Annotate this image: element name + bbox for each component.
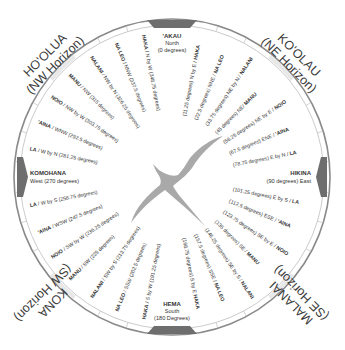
house-name: HAKA [193,294,202,310]
house-label: (22.5 degrees) NNE / NA LEO [193,54,225,121]
house-label: (135 degrees) SE / MANU [214,219,261,266]
house-label: HAKA / S by W (191.25 degrees) [141,243,162,320]
cardinal-north-degrees: (0 degrees) [158,47,187,53]
cardinal-south-degrees: (180 Degrees) [154,315,190,321]
cardinal-south: HEMA South (180 Degrees) [154,301,190,321]
cardinal-north: 'AKAU North (0 degrees) [158,33,187,53]
house-name: MANU [246,250,261,265]
cardinal-south-direction: South [165,308,180,314]
house-name: 'AINA [274,126,289,137]
cardinal-east-name: HIKINA [290,170,311,176]
house-direction: / N by W (348.75 degrees) [144,49,162,112]
house-name: NA LEO [114,42,127,62]
house-direction: (101.25 degrees) E by S / [232,186,293,204]
west-marker-icon [17,157,28,197]
house-name: LA [292,198,300,205]
cardinal-west: KOMOHANA West (270 degrees) [30,170,79,184]
house-name: NALANI [238,56,254,76]
house-direction: / SW by S (213.75 degrees) [100,225,142,283]
house-label: LA / W by S (258.75 degrees) [29,189,98,208]
cardinal-south-name: HEMA [163,301,181,307]
svg-text:(56.25 degrees) NE by E / NOIO: (56.25 degrees) NE by E / NOIO [222,98,287,144]
house-name: HAKA [192,44,201,60]
cardinal-west-direction: West (270 degrees) [30,178,79,184]
house-label: (56.25 degrees) NE by E / NOIO [222,98,287,144]
north-marker-icon [147,20,197,28]
south-marker-icon [147,326,197,334]
cardinal-west-name: KOMOHANA [30,170,67,176]
house-name: NA LEO [114,292,127,312]
house-name: LA [289,149,297,156]
house-direction: (78.75 degrees) E by N / [232,150,290,167]
house-direction: (11.25 degrees) N by E / [181,59,198,117]
svg-text:(135 degrees) SE / MANU: (135 degrees) SE / MANU [214,219,261,266]
house-name: NOIO [273,98,287,110]
svg-text:(22.5 degrees) NNE / NA LEO: (22.5 degrees) NNE / NA LEO [193,54,225,121]
house-direction: / W by N (281.25 degrees) [36,147,99,165]
svg-text:LA / W by S (258.75 degrees): LA / W by S (258.75 degrees) [29,189,98,208]
house-direction: / S by W (191.25 degrees) [143,243,161,305]
house-name: NA LEO [212,54,225,74]
house-name: NALANI [240,280,256,300]
star-compass-diagram: 'AKAU North (0 degrees) HEMA South (180 … [0,0,345,350]
house-name: NOIO [275,244,289,256]
cardinal-north-name: 'AKAU [163,33,182,39]
house-name: 'AINA [277,218,292,229]
east-marker-icon [316,157,327,197]
frigate-bird-icon [131,136,223,226]
svg-text:(78.75 degrees) E by N / LA: (78.75 degrees) E by N / LA [232,149,297,168]
cardinal-north-direction: North [165,40,179,46]
cardinal-east-direction: (90 degrees) East [267,178,312,184]
house-name: NA LEO [213,282,226,302]
cardinal-east: HIKINA (90 degrees) East [267,170,312,184]
house-name: HAKA [141,34,150,50]
house-label: (78.75 degrees) E by N / LA [232,149,297,168]
house-name: MANU [242,91,257,106]
svg-text:HAKA / S by W (191.25 degrees): HAKA / S by W (191.25 degrees) [141,243,162,320]
house-name: HAKA [141,304,150,320]
svg-text:LA / W by N (281.25 degrees): LA / W by N (281.25 degrees) [29,146,98,165]
house-direction: / W by S (258.75 degrees) [36,189,98,207]
house-label: LA / W by N (281.25 degrees) [29,146,98,165]
house-direction: (168.75 degrees) S by E [181,237,198,295]
